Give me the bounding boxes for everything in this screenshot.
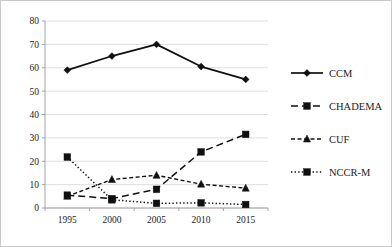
data-point-marker-chadema-2010 <box>198 149 205 156</box>
y-tick-label-60: 60 <box>30 63 40 73</box>
x-tick-label-2015: 2015 <box>236 215 255 225</box>
legend-entry-nccr-m[interactable]: NCCR-M <box>291 167 371 178</box>
series-ccm <box>64 41 249 83</box>
data-point-marker-ccm-2000 <box>109 53 116 60</box>
data-point-marker-chadema-2015 <box>242 131 249 138</box>
data-point-marker-ccm-2005 <box>153 41 160 48</box>
data-point-marker-legend-chadema <box>304 103 311 110</box>
series-cuf <box>64 171 250 199</box>
axis-lines-group <box>42 21 268 211</box>
data-point-marker-nccr-m-2005 <box>153 200 160 207</box>
legend-label-nccr-m: NCCR-M <box>329 167 371 178</box>
legend-entry-chadema[interactable]: CHADEMA <box>291 101 383 112</box>
x-axis-tick-labels: 19952000200520102015 <box>58 215 256 225</box>
data-point-marker-nccr-m-2010 <box>198 200 205 207</box>
data-point-marker-nccr-m-1995 <box>64 154 71 161</box>
data-point-marker-nccr-m-2000 <box>109 197 116 204</box>
chart-figure: 01020304050607080 19952000200520102015 C… <box>0 0 392 247</box>
legend-label-chadema: CHADEMA <box>329 101 383 112</box>
gridlines-group <box>45 21 268 208</box>
data-point-marker-cuf-2000 <box>108 176 115 183</box>
series-nccr-m <box>64 154 249 208</box>
y-tick-label-50: 50 <box>30 87 40 97</box>
data-point-marker-ccm-2010 <box>198 63 205 70</box>
y-tick-label-0: 0 <box>34 203 39 213</box>
data-point-marker-legend-ccm <box>304 70 311 77</box>
x-tick-label-2000: 2000 <box>102 215 121 225</box>
y-tick-label-40: 40 <box>30 110 40 120</box>
data-point-marker-ccm-2015 <box>242 76 249 83</box>
y-tick-label-70: 70 <box>30 40 40 50</box>
series-line-ccm <box>67 44 245 79</box>
y-tick-label-80: 80 <box>30 16 40 26</box>
data-point-marker-nccr-m-2015 <box>242 201 249 208</box>
data-point-marker-cuf-2005 <box>153 171 160 178</box>
y-tick-label-10: 10 <box>30 180 40 190</box>
y-axis-tick-labels: 01020304050607080 <box>30 16 40 213</box>
legend-label-cuf: CUF <box>329 134 350 145</box>
data-series-group <box>64 41 250 208</box>
legend-label-ccm: CCM <box>329 68 353 79</box>
legend-entry-cuf[interactable]: CUF <box>291 134 350 145</box>
y-tick-label-30: 30 <box>30 133 40 143</box>
line-chart-canvas: 01020304050607080 19952000200520102015 C… <box>1 1 392 247</box>
y-tick-label-20: 20 <box>30 157 40 167</box>
x-tick-label-2010: 2010 <box>192 215 211 225</box>
data-point-marker-chadema-2005 <box>153 186 160 193</box>
data-point-marker-cuf-2015 <box>242 184 249 191</box>
x-tick-label-2005: 2005 <box>147 215 166 225</box>
chart-legend: CCMCHADEMACUFNCCR-M <box>291 68 383 178</box>
legend-entry-ccm[interactable]: CCM <box>291 68 353 79</box>
data-point-marker-legend-nccr-m <box>304 169 311 176</box>
x-tick-label-1995: 1995 <box>58 215 77 225</box>
series-chadema <box>64 131 249 202</box>
